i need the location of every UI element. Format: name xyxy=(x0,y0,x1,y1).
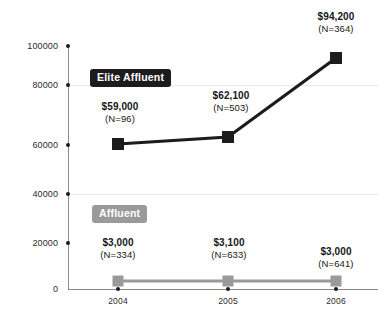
annotation-elite-2004: $59,000 (N=96) xyxy=(74,100,166,126)
annotation-affluent-2004-value: $3,000 xyxy=(72,236,164,249)
annotation-affluent-2005-n: (N=633) xyxy=(183,249,275,262)
annotation-elite-2006-n: (N=364) xyxy=(290,23,382,36)
annotation-elite-2005-value: $62,100 xyxy=(185,89,277,102)
line-chart: 100000 80000 60000 40000 20000 0 2004 20… xyxy=(0,0,388,322)
series-badge-affluent: Affluent xyxy=(92,205,147,223)
annotation-elite-2005: $62,100 (N=503) xyxy=(185,89,277,115)
annotation-affluent-2005-value: $3,100 xyxy=(183,236,275,249)
annotation-elite-2004-value: $59,000 xyxy=(74,100,166,113)
annotation-affluent-2006-value: $3,000 xyxy=(290,245,382,258)
series-badge-elite-affluent: Elite Affluent xyxy=(90,69,171,87)
annotation-affluent-2006-n: (N=641) xyxy=(290,258,382,271)
series-marker-elite-2006 xyxy=(330,52,342,64)
annotation-affluent-2004-n: (N=334) xyxy=(72,249,164,262)
annotation-affluent-2006: $3,000 (N=641) xyxy=(290,245,382,271)
series-marker-elite-2005 xyxy=(222,131,234,143)
annotation-affluent-2004: $3,000 (N=334) xyxy=(72,236,164,262)
series-marker-affluent-2005 xyxy=(223,276,234,287)
series-marker-elite-2004 xyxy=(112,138,124,150)
annotation-affluent-2005: $3,100 (N=633) xyxy=(183,236,275,262)
series-marker-affluent-2006 xyxy=(331,276,342,287)
annotation-elite-2006: $94,200 (N=364) xyxy=(290,10,382,36)
series-marker-affluent-2004 xyxy=(113,276,124,287)
annotation-elite-2005-n: (N=503) xyxy=(185,102,277,115)
annotation-elite-2004-n: (N=96) xyxy=(74,113,166,126)
series-plot-area xyxy=(0,0,388,322)
annotation-elite-2006-value: $94,200 xyxy=(290,10,382,23)
